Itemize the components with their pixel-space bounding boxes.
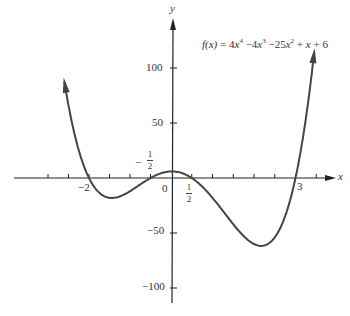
formula-part: + 6: [311, 38, 328, 50]
neg-half-denominator: 2: [148, 162, 153, 171]
formula-part: = 4: [217, 38, 234, 50]
half-denominator: 2: [187, 195, 192, 204]
y-tick-label-100: 100: [146, 62, 163, 73]
formula-fx: f(x): [202, 38, 217, 50]
x-tick-label-3: 3: [297, 181, 303, 192]
curve-right-arrow-icon: [309, 48, 316, 63]
origin-label: 0: [162, 183, 168, 194]
function-formula: f(x) = 4x4 −4x3 −25x2 + x + 6: [202, 37, 328, 50]
function-curve: [64, 52, 314, 246]
neg-half-annotation: 1 2: [147, 150, 153, 171]
curve-left-arrow-icon: [63, 78, 70, 93]
formula-part: −4: [243, 38, 257, 50]
neg-half-numerator: 1: [148, 150, 153, 159]
half-numerator: 1: [187, 183, 192, 192]
y-axis-arrow-icon: [170, 18, 176, 30]
formula-part: −25: [266, 38, 286, 50]
x-tick-label-neg2: −2: [78, 182, 90, 193]
neg-half-sign: −: [135, 157, 141, 168]
y-axis-label: y: [170, 3, 175, 14]
y-tick-label-neg100: −100: [142, 281, 165, 292]
x-axis-label: x: [338, 171, 343, 182]
y-tick-label-neg50: −50: [147, 225, 164, 236]
formula-part: +: [294, 38, 306, 50]
y-tick-label-50: 50: [152, 117, 163, 128]
x-axis-arrow-icon: [325, 175, 336, 181]
half-tick-label: 1 2: [186, 183, 192, 204]
